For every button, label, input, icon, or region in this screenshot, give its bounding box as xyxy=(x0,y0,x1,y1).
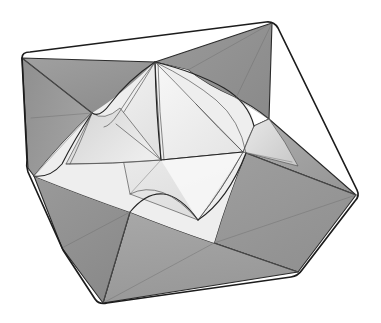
origami-figure xyxy=(0,0,381,323)
image-canvas: Curved-crease origami tessellation Grays… xyxy=(0,0,381,323)
